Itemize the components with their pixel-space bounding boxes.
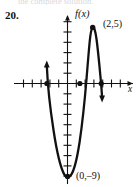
local-minimum-label: (0,–9) <box>76 170 100 181</box>
cubic-curve-path <box>47 27 102 177</box>
local-maximum-label: (2,5) <box>103 18 122 29</box>
axes-group <box>14 15 133 184</box>
function-curve <box>44 27 105 177</box>
x-axis-label: x <box>128 84 132 94</box>
marked-points-group <box>44 25 103 179</box>
point-local-maximum <box>90 25 95 30</box>
point-local-minimum <box>65 174 70 179</box>
figure-container: the complete solution. 20. <box>0 0 138 187</box>
curve-arrow-up-icon <box>44 61 50 68</box>
curve-arrow-down-icon <box>99 96 105 103</box>
function-label: f(x) <box>75 8 90 19</box>
point-x-intercept-right <box>99 81 104 86</box>
point-x-intercept-left <box>44 81 49 86</box>
y-axis-arrow-icon <box>65 15 70 21</box>
point-x-intercept-middle <box>77 81 82 86</box>
